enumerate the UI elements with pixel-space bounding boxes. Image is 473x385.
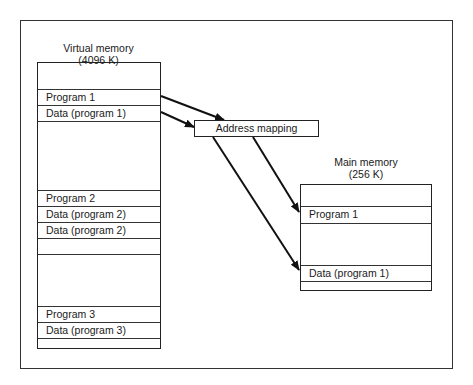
mapping-arrows	[0, 0, 473, 385]
arrow-data1-to-mapping	[161, 112, 194, 127]
arrow-mapping-to-program1	[253, 137, 299, 212]
address-mapping-box: Address mapping	[194, 120, 319, 137]
arrow-mapping-to-data1	[213, 137, 299, 270]
